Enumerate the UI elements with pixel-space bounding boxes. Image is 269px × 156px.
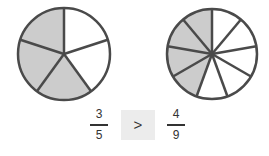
right-denominator: 9 — [166, 128, 186, 142]
right-numerator: 4 — [166, 107, 186, 121]
left-numerator: 3 — [89, 107, 109, 121]
fraction-bar — [167, 124, 185, 126]
fraction-bar — [90, 124, 108, 126]
left-denominator: 5 — [89, 128, 109, 142]
comparison-symbol-box[interactable]: > — [121, 110, 155, 140]
right-fraction-pie — [0, 0, 269, 110]
